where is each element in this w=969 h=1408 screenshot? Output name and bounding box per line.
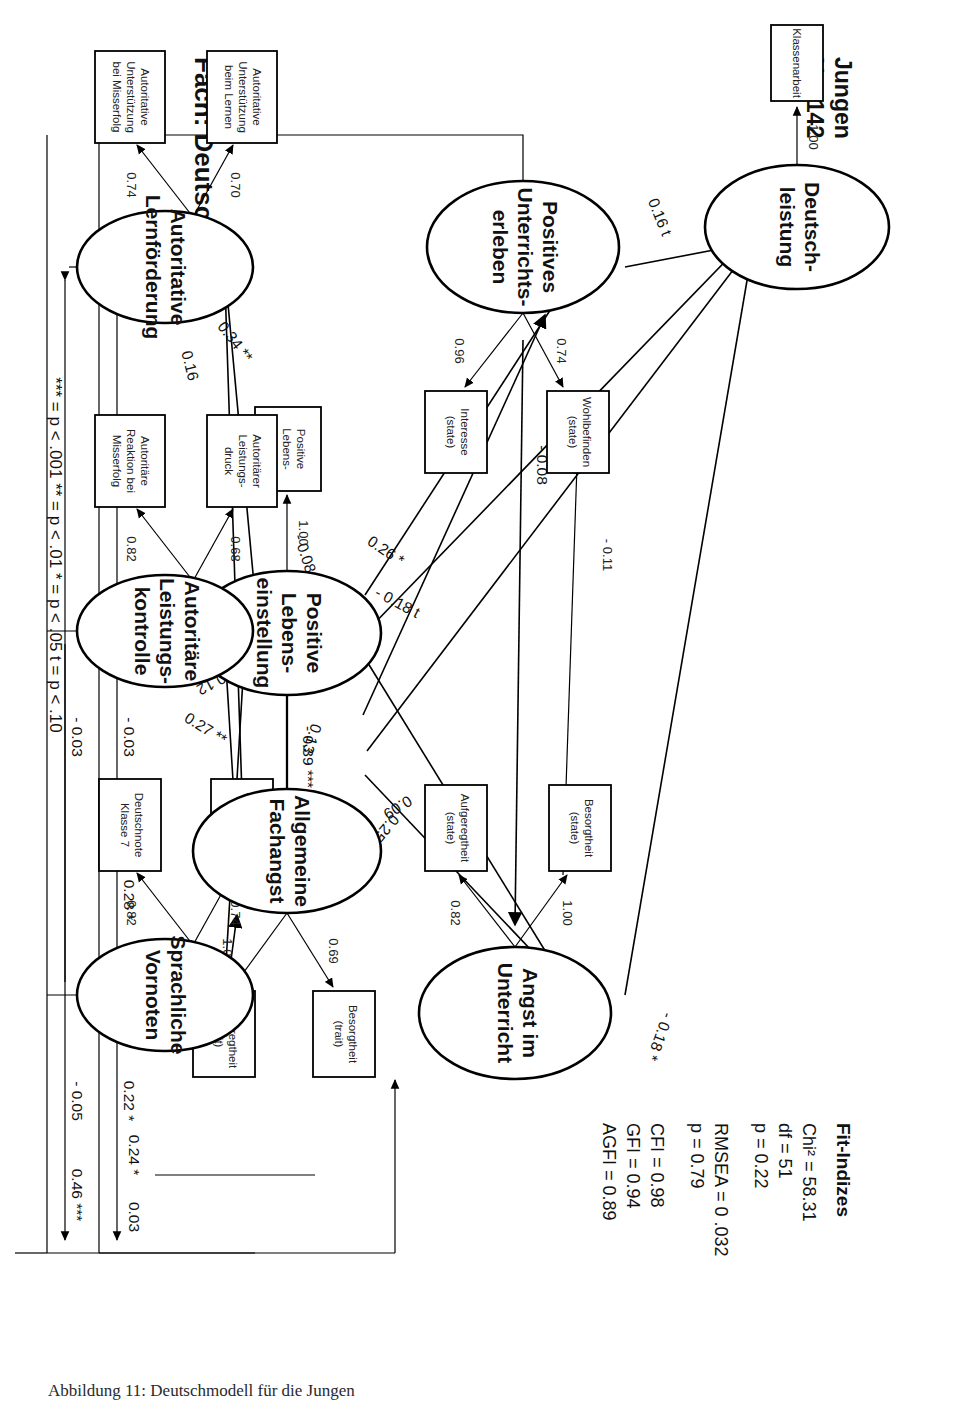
- latent-leistungskontrolle[interactable]: AutoritäreLeistungs-kontrolle: [77, 575, 253, 687]
- coef-lernfoerderung-fachangst: 0.16: [178, 349, 202, 382]
- cov-label-8: 0.03: [126, 1202, 143, 1232]
- loading-leistungsdruck: 0.68: [228, 536, 243, 561]
- mv-unterst-lernen-label: AutoritativeUnterstützungbeim Lernen: [223, 61, 263, 133]
- measurement-lernfoerderung: 0.70 0.74 AutoritativeUnterstützungbeim …: [95, 51, 277, 217]
- latent-posunterricht[interactable]: PositivesUnterrichts-erleben: [427, 181, 619, 313]
- loading-klassenarbeit: 1.00: [806, 124, 821, 149]
- loading-aufgeregt-state: 0.82: [448, 900, 463, 925]
- fit-p-chi2: p = 0.22: [751, 1123, 771, 1189]
- significance-legend: *** = p < .001 ** = p < .01 * = p < .05 …: [46, 377, 65, 732]
- coef-posunterricht-deutschleistung: 0.16 t: [644, 196, 675, 239]
- cov-label-2: - 0.03: [121, 717, 138, 757]
- measurement-posunterricht: 0.74 0.96 Wohlbefinden(state) Interesse(…: [425, 313, 609, 473]
- fit-p-rmsea: p = 0.79: [687, 1123, 707, 1189]
- loading-interesse: 0.96: [452, 338, 467, 363]
- loading-unterst-lernen: 0.70: [228, 172, 243, 197]
- cov-label-5: - 0.03: [69, 717, 86, 757]
- outer-rail-left: [99, 135, 523, 200]
- path-angst-deutschleistung: [625, 263, 750, 995]
- lv-posleben-label: PositiveLebens-einstellung: [253, 578, 326, 689]
- group-label: Jungen: [830, 57, 856, 139]
- coef-wohlbefinden-besorgtheit: - 0.11: [600, 539, 615, 571]
- fit-cfi: CFI = 0.98: [647, 1123, 667, 1208]
- latent-vornoten[interactable]: SprachlicheVornoten: [77, 935, 253, 1054]
- mv-klassenarbeit-label: Klassenarbeit: [791, 28, 803, 98]
- fit-df: df = 51: [775, 1123, 795, 1179]
- figure-page: Jungen N = 142 Fach: Deutsch Fit-Indizes…: [0, 0, 969, 1408]
- loading-besorgt-trait: 0.69: [326, 938, 341, 963]
- fit-indices-block: Fit-Indizes Chi² = 58.31 df = 51 p = 0.2…: [599, 1123, 854, 1257]
- fit-agfi: AGFI = 0.89: [599, 1123, 619, 1221]
- measurement-deutschleistung: 1.00 Klassenarbeit: [771, 25, 823, 167]
- coef-posleben-angst: - 0.18 t: [372, 583, 423, 621]
- measurement-leistungskontrolle: 0.68 0.82 AutoritärerLeistungs-druck Aut…: [95, 415, 277, 581]
- rotated-diagram-canvas: Jungen N = 142 Fach: Deutsch Fit-Indizes…: [15, 0, 955, 1285]
- fit-gfi: GFI = 0.94: [623, 1123, 643, 1209]
- loading-wohlbefinden: 0.74: [554, 338, 569, 363]
- latent-deutschleistung[interactable]: Deutsch-leistung: [705, 165, 889, 289]
- loading-reaktion-misserfolg: 0.82: [124, 536, 139, 561]
- lv-leistungskontrolle-label: AutoritäreLeistungs-kontrolle: [131, 578, 204, 684]
- cov-label-9: 0.46 ***: [69, 1169, 86, 1222]
- mv-unterst-misserfolg-label: AutoritativeUnterstützungbei Misserfolg: [111, 61, 151, 133]
- mv-reaktion-misserfolg-label: AutoritäreReaktion beiMisserfolg: [111, 429, 151, 493]
- path-fachangst-deutschleistung: [367, 257, 743, 751]
- coef-posleben-fachangst: - 0.39 ***: [300, 726, 317, 788]
- fit-chi2: Chi² = 58.31: [799, 1123, 819, 1222]
- latent-fachangst[interactable]: AllgemeineFachangst: [193, 789, 381, 913]
- latent-angst[interactable]: Angst imUnterricht: [419, 947, 611, 1079]
- cov-label-7: 0.24 *: [126, 1135, 143, 1176]
- fit-rmsea: RMSEA = 0 .032: [711, 1123, 731, 1257]
- loading-posleben: 1.00: [296, 520, 311, 545]
- loading-unterst-misserfolg: 0.74: [124, 172, 139, 197]
- coef-angst-deutschleistung: - 0.18 *: [643, 1010, 676, 1063]
- coef-lernfoerderung-posleben: 0.34 **: [214, 318, 256, 365]
- path-posunterricht-angst: [515, 340, 523, 925]
- cov-label-6: - 0.05: [69, 1081, 86, 1121]
- loading-besorgt-state: 1.00: [560, 900, 575, 925]
- cov-label-4: 0.22 *: [121, 1081, 138, 1122]
- figure-caption: Abbildung 11: Deutschmodell für die Jung…: [48, 1381, 928, 1401]
- fit-title: Fit-Indizes: [833, 1123, 854, 1217]
- sem-path-diagram: Jungen N = 142 Fach: Deutsch Fit-Indizes…: [15, 0, 955, 1285]
- coef-leistungskontrolle-fachangst: 0.27 **: [181, 709, 229, 748]
- measurement-angst: 1.00 0.82 Besorgtheit(state) Aufgeregthe…: [425, 785, 611, 947]
- loading-deutschnote: 0.82: [124, 900, 139, 925]
- path-fachangst-posunterricht: [363, 315, 545, 715]
